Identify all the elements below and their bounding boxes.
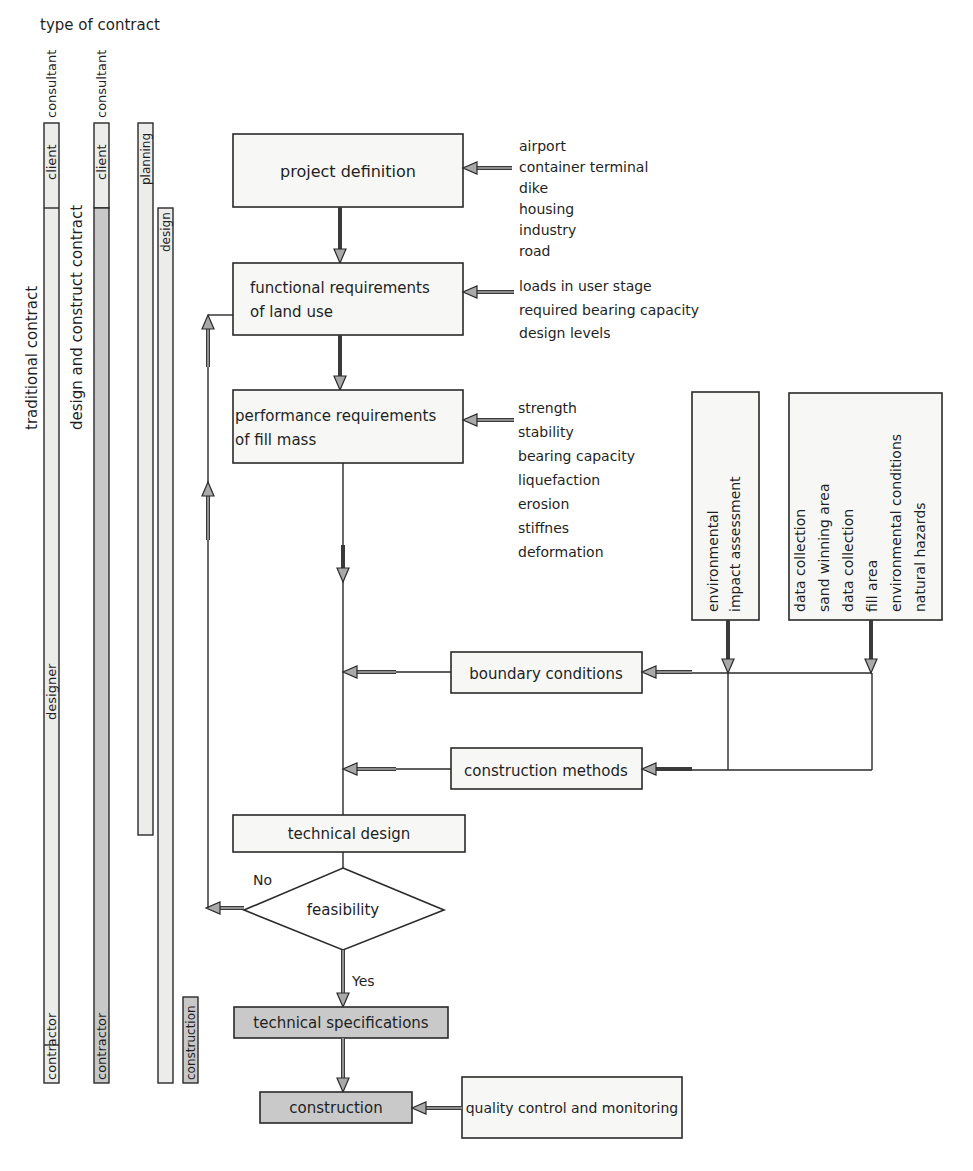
design-construct-label: design and construct contract [68, 205, 86, 430]
functional-requirements-label-2: of land use [250, 303, 333, 321]
list-item: liquefaction [518, 472, 600, 488]
list-item: design levels [519, 325, 610, 341]
arrow-left-icon [642, 763, 692, 775]
list-item: loads in user stage [519, 278, 652, 294]
list-item: environmental conditions [888, 434, 904, 612]
arrow-left-icon [206, 902, 244, 914]
list-item: housing [519, 201, 574, 217]
list-item: strength [518, 400, 577, 416]
design-phase-bar [158, 208, 173, 1083]
functional-inputs-list: loads in user stage required bearing cap… [519, 278, 699, 341]
performance-requirements-label-2: of fill mass [235, 431, 316, 449]
dc-client-label: client [94, 144, 109, 180]
arrow-down-icon [334, 335, 346, 390]
traditional-designer-label: designer [44, 663, 59, 720]
arrow-left-icon [343, 763, 396, 775]
project-definition-label: project definition [280, 162, 416, 181]
environmental-label-2: impact assessment [727, 476, 743, 612]
list-item: stiffnes [518, 520, 569, 536]
performance-inputs-list: strength stability bearing capacity liqu… [518, 400, 635, 560]
traditional-contractor-label: contractor [44, 1012, 59, 1080]
list-item: erosion [518, 496, 569, 512]
arrow-down-icon [337, 1038, 349, 1092]
arrow-up-icon [202, 482, 214, 540]
arrow-left-icon [463, 286, 514, 298]
traditional-contract-column: client consultant designer contractor tr… [23, 50, 59, 1083]
performance-requirements-label-1: performance requirements [235, 407, 436, 425]
no-label: No [253, 872, 272, 888]
feasibility-label: feasibility [307, 901, 380, 919]
construction-label: construction [289, 1099, 382, 1117]
design-phase-label: design [159, 212, 173, 252]
project-types-list: airport container terminal dike housing … [519, 138, 648, 259]
arrow-left-icon [642, 666, 692, 678]
list-item: bearing capacity [518, 448, 635, 464]
list-item: dike [519, 180, 548, 196]
arrow-up-icon [202, 315, 214, 367]
arrow-down-icon [337, 545, 349, 582]
yes-label: Yes [351, 973, 375, 989]
functional-requirements-label-1: functional requirements [250, 279, 430, 297]
traditional-consultant-label: consultant [44, 50, 59, 118]
list-item: data collection [792, 509, 808, 612]
performance-requirements-box [233, 390, 463, 463]
list-item: stability [518, 424, 574, 440]
arrow-down-icon [337, 950, 349, 1007]
environmental-label-1: environmental [705, 510, 721, 612]
list-item: airport [519, 138, 566, 154]
arrow-down-icon [334, 207, 346, 263]
environmental-impact-box [692, 392, 759, 620]
list-item: deformation [518, 544, 604, 560]
dc-consultant-label: consultant [94, 50, 109, 118]
list-item: required bearing capacity [519, 302, 699, 318]
arrow-down-icon [722, 620, 734, 673]
functional-requirements-box [233, 263, 463, 335]
boundary-conditions-label: boundary conditions [469, 665, 623, 683]
flowchart-diagram: type of contract client consultant desig… [0, 0, 973, 1171]
list-item: sand winning area [816, 484, 832, 613]
contract-type-title: type of contract [40, 16, 160, 34]
design-construct-column: client consultant contractor design and … [68, 50, 109, 1083]
list-item: data collection [840, 509, 856, 612]
traditional-contract-label: traditional contract [23, 286, 41, 430]
construction-methods-label: construction methods [464, 762, 628, 780]
traditional-bar [44, 123, 59, 1083]
technical-design-label: technical design [288, 825, 411, 843]
planning-phase-bar [138, 123, 153, 835]
construction-phase-label: construction [184, 1005, 198, 1080]
list-item: container terminal [519, 159, 648, 175]
list-item: fill area [864, 560, 880, 612]
quality-control-label: quality control and monitoring [466, 1100, 679, 1116]
arrow-left-icon [463, 414, 514, 426]
list-item: road [519, 243, 550, 259]
traditional-client-label: client [44, 144, 59, 180]
arrow-down-icon [865, 620, 877, 673]
technical-specifications-label: technical specifications [253, 1014, 429, 1032]
dc-contractor-label: contractor [94, 1012, 109, 1080]
arrow-left-icon [463, 162, 512, 174]
list-item: natural hazards [912, 502, 928, 612]
arrow-left-icon [412, 1102, 462, 1114]
list-item: industry [519, 222, 576, 238]
planning-phase-label: planning [139, 133, 153, 185]
design-construct-bar [94, 208, 109, 1083]
arrow-left-icon [343, 666, 396, 678]
